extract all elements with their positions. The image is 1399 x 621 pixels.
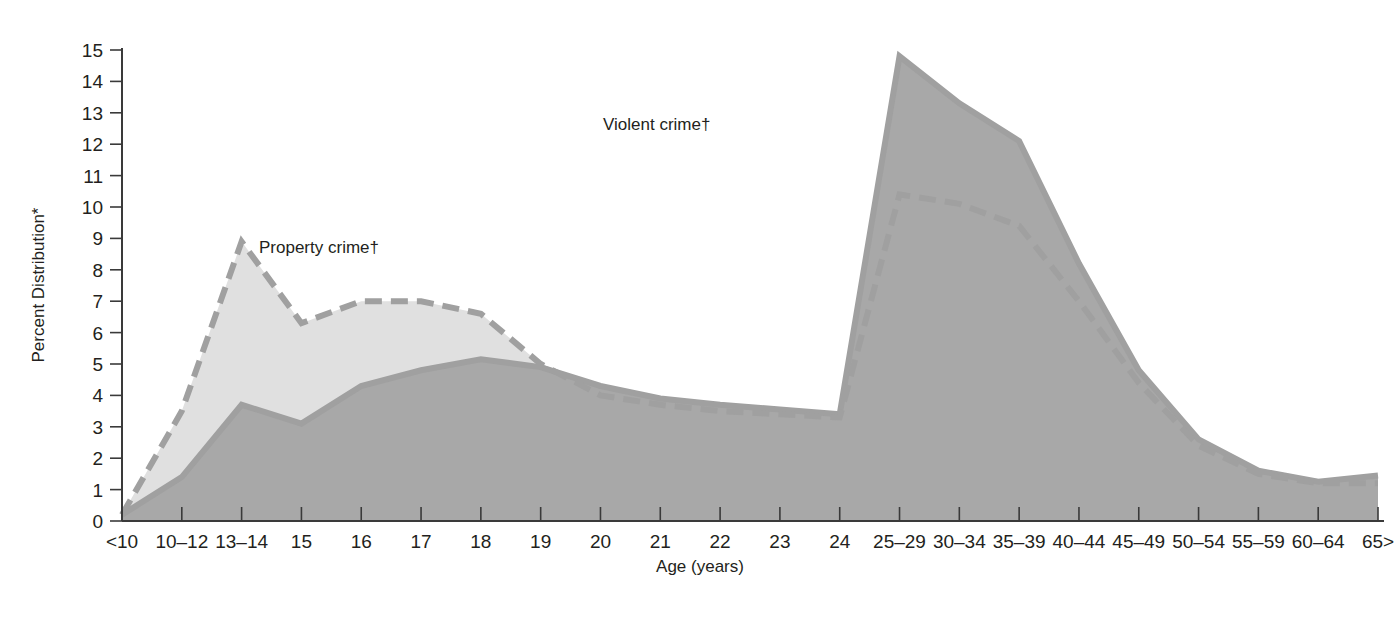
x-axis-tick-label: 45–49 [1112, 531, 1165, 552]
y-axis-tick-label: 4 [92, 385, 103, 406]
x-axis-tick-label: 18 [470, 531, 491, 552]
x-axis-tick-label: 16 [351, 531, 372, 552]
y-axis-tick-label: 6 [92, 323, 103, 344]
y-axis-ticks: 0123456789101112131415 [82, 40, 122, 532]
x-axis-tick-label: 22 [710, 531, 731, 552]
x-axis-title: Age (years) [656, 557, 744, 576]
y-axis-tick-label: 10 [82, 197, 103, 218]
y-axis-tick-label: 11 [83, 166, 103, 187]
y-axis-tick-label: 8 [92, 260, 103, 281]
y-axis-tick-label: 12 [82, 134, 103, 155]
x-axis-tick-label: 17 [410, 531, 431, 552]
y-axis-tick-label: 7 [92, 291, 103, 312]
x-axis-tick-label: 23 [769, 531, 790, 552]
y-axis-tick-label: 0 [92, 511, 103, 532]
y-axis-title: Percent Distribution* [29, 207, 48, 362]
chart-container: 0123456789101112131415 <1010–1213–141516… [0, 0, 1399, 621]
y-axis-tick-label: 9 [92, 228, 103, 249]
x-axis-tick-label: 24 [829, 531, 851, 552]
x-axis-tick-label: 60–64 [1292, 531, 1345, 552]
x-axis-tick-label: 13–14 [215, 531, 268, 552]
x-axis-tick-label: 21 [650, 531, 671, 552]
x-axis-tick-label: 30–34 [933, 531, 986, 552]
violent-crime-area [122, 56, 1378, 521]
y-axis-tick-label: 2 [92, 448, 103, 469]
x-axis-tick-label: 20 [590, 531, 611, 552]
age-crime-distribution-chart: 0123456789101112131415 <1010–1213–141516… [0, 0, 1399, 621]
property-crime-series-label: Property crime† [259, 238, 379, 257]
violent-crime-series-label: Violent crime† [603, 115, 710, 134]
x-axis-tick-label: 19 [530, 531, 551, 552]
x-axis-tick-label: 10–12 [155, 531, 208, 552]
y-axis-tick-label: 15 [82, 40, 103, 61]
x-axis-tick-label: <10 [106, 531, 138, 552]
y-axis-tick-label: 13 [82, 103, 103, 124]
x-axis-tick-label: 15 [291, 531, 312, 552]
x-axis-tick-label: 35–39 [993, 531, 1046, 552]
x-axis-tick-label: 50–54 [1172, 531, 1225, 552]
y-axis-tick-label: 5 [92, 354, 103, 375]
x-axis-tick-label: 55–59 [1232, 531, 1285, 552]
x-axis-tick-label: 65> [1362, 531, 1394, 552]
x-axis-tick-label: 40–44 [1053, 531, 1106, 552]
x-axis-tick-label: 25–29 [873, 531, 926, 552]
y-axis-tick-label: 14 [82, 71, 104, 92]
y-axis-tick-label: 3 [92, 417, 103, 438]
y-axis-tick-label: 1 [92, 480, 103, 501]
